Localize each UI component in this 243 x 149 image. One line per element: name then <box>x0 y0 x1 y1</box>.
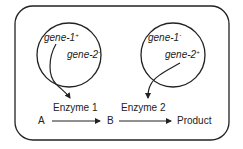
right-gene1-label: gene-1- <box>148 33 181 43</box>
enzyme2-label: Enzyme 2 <box>121 103 165 113</box>
left-gene1-allele: + <box>75 32 79 38</box>
substrate-a-label: A <box>38 116 45 126</box>
left-gene2-name: gene-2 <box>67 49 98 60</box>
right-gene2-name: gene-2 <box>165 49 196 60</box>
intermediate-b-label: B <box>107 116 114 126</box>
left-gene1-label: gene-1+ <box>44 33 79 43</box>
right-gene2-allele: + <box>196 49 200 55</box>
diagram-canvas <box>0 0 243 149</box>
enzyme1-label: Enzyme 1 <box>53 103 97 113</box>
left-gene2-label: gene-2- <box>67 50 100 60</box>
right-expression-arrow <box>148 63 180 98</box>
left-gene1-name: gene-1 <box>44 32 75 43</box>
right-gene2-label: gene-2+ <box>165 50 200 60</box>
left-gene2-allele: - <box>98 49 100 55</box>
right-gene1-allele: - <box>179 32 181 38</box>
right-gene1-name: gene-1 <box>148 32 179 43</box>
product-label: Product <box>177 116 211 126</box>
